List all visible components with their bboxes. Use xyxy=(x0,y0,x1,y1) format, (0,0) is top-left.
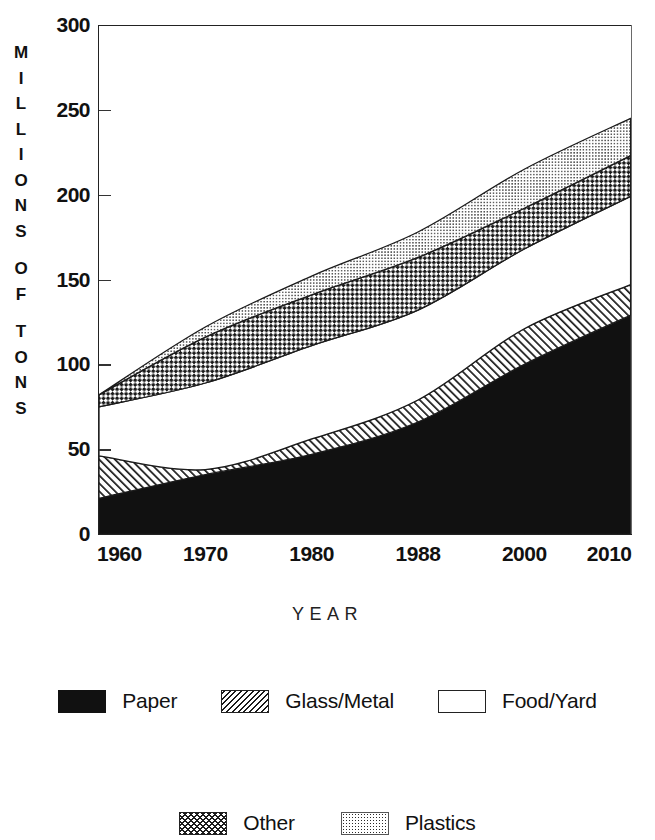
x-axis-tick-label: 1980 xyxy=(289,542,334,566)
legend-item: Other xyxy=(179,811,295,835)
x-axis-tick-labels: 196019701980198820002010 xyxy=(98,542,632,572)
y-axis-tick-label: 250 xyxy=(36,98,90,122)
y-axis-tick-label: 50 xyxy=(36,437,90,461)
legend-label: Plastics xyxy=(405,811,476,835)
y-axis-tick-label: 100 xyxy=(36,352,90,376)
solid-black-swatch xyxy=(58,690,106,713)
stipple-dots-swatch xyxy=(341,812,389,835)
x-axis-tick-label: 2000 xyxy=(502,542,547,566)
y-axis-title-letter: O xyxy=(8,345,34,371)
legend-item: Plastics xyxy=(341,811,476,835)
legend-item: Paper xyxy=(58,689,177,713)
y-axis-title-letter: S xyxy=(8,219,34,245)
legend-label: Glass/Metal xyxy=(285,689,394,713)
chart-plot-area xyxy=(98,25,632,535)
y-axis-tick-label: 0 xyxy=(36,522,90,546)
diagonal-hatch-swatch xyxy=(221,690,269,713)
legend-item: Glass/Metal xyxy=(221,689,394,713)
y-axis-title-letter: T xyxy=(8,319,34,345)
x-axis-tick-label: 1970 xyxy=(183,542,228,566)
y-axis-title-letter: F xyxy=(8,282,34,308)
checkerboard-swatch xyxy=(179,812,227,835)
y-axis-title-letter: L xyxy=(8,117,34,143)
y-axis-title-letter xyxy=(8,307,34,319)
y-axis-title-letter: S xyxy=(8,396,34,422)
y-axis-title-letter: O xyxy=(8,168,34,194)
legend-label: Food/Yard xyxy=(502,689,597,713)
y-axis-title-letter: N xyxy=(8,193,34,219)
y-axis-tick-mark xyxy=(99,449,111,450)
legend-item: Food/Yard xyxy=(438,689,597,713)
y-axis-tick-label: 150 xyxy=(36,268,90,292)
y-axis-tick-label: 200 xyxy=(36,183,90,207)
y-axis-title-letter: O xyxy=(8,256,34,282)
x-axis-tick-label: 1988 xyxy=(396,542,441,566)
y-axis-tick-mark xyxy=(99,110,111,111)
white-box-swatch xyxy=(438,690,486,713)
y-axis-title-letter: M xyxy=(8,40,34,66)
chart-legend-row-2: OtherPlastics xyxy=(0,808,655,838)
y-axis-tick-labels: 050100150200250300 xyxy=(34,0,90,560)
y-axis-tick-mark xyxy=(99,280,111,281)
x-axis-title: YEAR xyxy=(0,604,655,625)
x-axis-tick-label: 1960 xyxy=(97,542,142,566)
legend-label: Paper xyxy=(122,689,177,713)
stacked-area-series xyxy=(99,25,631,534)
y-axis-title: MILLIONSOFTONS xyxy=(8,40,34,421)
legend-label: Other xyxy=(243,811,295,835)
y-axis-tick-mark xyxy=(99,195,111,196)
y-axis-tick-mark xyxy=(99,364,111,365)
chart-legend-row-1: PaperGlass/MetalFood/Yard xyxy=(0,686,655,716)
y-axis-title-letter xyxy=(8,244,34,256)
plot-border-right xyxy=(631,25,632,535)
y-axis-title-letter: N xyxy=(8,370,34,396)
y-axis-title-letter: I xyxy=(8,66,34,92)
y-axis-title-letter: I xyxy=(8,142,34,168)
x-axis-tick-label: 2010 xyxy=(587,542,632,566)
y-axis-title-letter: L xyxy=(8,91,34,117)
y-axis-tick-label: 300 xyxy=(36,13,90,37)
